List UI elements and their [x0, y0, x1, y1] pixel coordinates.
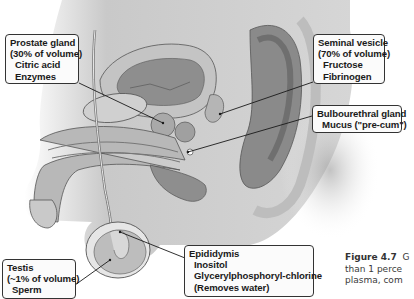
prostate-volume: (30% of volume) [10, 48, 74, 59]
figure-label: Figure 4.7 [345, 252, 397, 262]
callout-epididymis: Epididymis Inositol Glycerylphosphoryl-c… [184, 245, 314, 297]
bulbourethral-component: Mucus ("pre-cum") [317, 119, 397, 130]
caption-line-1: G [402, 252, 409, 262]
caption-line-2: than 1 perce [345, 264, 414, 276]
epididymis-note: (Removes water) [189, 282, 309, 293]
testis-title: Testis [7, 262, 71, 273]
callout-prostate-gland: Prostate gland (30% of volume) Citric ac… [5, 34, 79, 84]
figure-caption: Figure 4.7 G than 1 perce plasma, com [345, 252, 414, 287]
bulbourethral-title: Bulbourethral gland [317, 108, 397, 119]
callout-seminal-vesicle: Seminal vesicle (70% of volume) Fructose… [313, 34, 385, 84]
testis-component: Sperm [7, 284, 71, 295]
seminal-vesicle-volume: (70% of volume) [318, 48, 380, 59]
prostate-component-2: Enzymes [10, 71, 74, 82]
callout-bulbourethral-gland: Bulbourethral gland Mucus ("pre-cum") [312, 105, 402, 133]
epididymis-component-1: Inositol [189, 259, 309, 270]
testis [86, 222, 150, 278]
epididymis-title: Epididymis [189, 248, 309, 259]
testis-volume: (~1% of volume) [7, 273, 71, 284]
caption-line-3: plasma, com [345, 275, 414, 287]
prostate-title: Prostate gland [10, 37, 74, 48]
prostate-component-1: Citric acid [10, 59, 74, 70]
callout-testis: Testis (~1% of volume) Sperm [2, 259, 76, 299]
seminal-vesicle-component-2: Fibrinogen [318, 71, 380, 82]
epididymis-component-2: Glycerylphosphoryl-chlorine [189, 270, 309, 281]
seminal-vesicle-component-1: Fructose [318, 59, 380, 70]
seminal-vesicle-title: Seminal vesicle [318, 37, 380, 48]
